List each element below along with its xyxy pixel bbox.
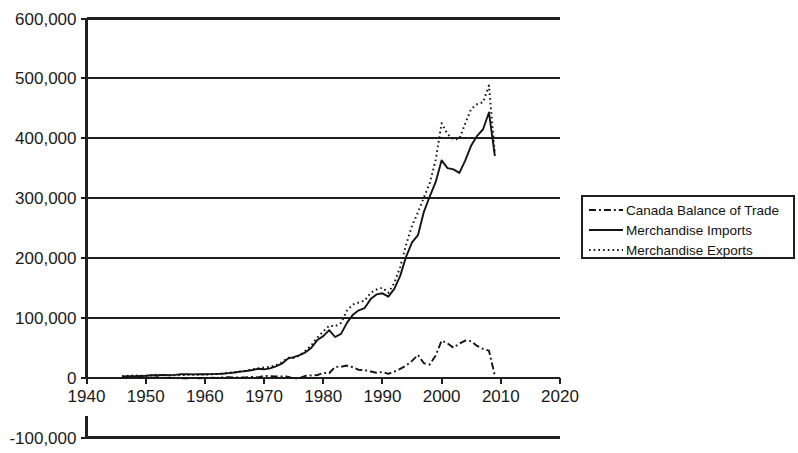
y-tick-label: 200,000 — [15, 249, 76, 268]
y-axis-tick-labels: -100,0000100,000200,000300,000400,000500… — [9, 10, 76, 448]
series-line-canada-balance-of-trade — [122, 341, 495, 379]
data-series — [122, 86, 495, 379]
x-tick-label: 1970 — [245, 387, 283, 406]
x-tick-label: 2020 — [541, 387, 579, 406]
trade-line-chart: -100,0000100,000200,000300,000400,000500… — [0, 0, 798, 453]
y-tick-label: -100,000 — [9, 429, 76, 448]
y-tick-label: 500,000 — [15, 69, 76, 88]
y-tick-label: 100,000 — [15, 309, 76, 328]
legend-label-1: Merchandise Imports — [626, 223, 752, 238]
x-tick-label: 2000 — [423, 387, 461, 406]
series-line-merchandise-exports — [122, 86, 495, 377]
y-tick-label: 400,000 — [15, 129, 76, 148]
legend-label-2: Merchandise Exports — [626, 243, 753, 258]
x-tick-label: 1960 — [186, 387, 224, 406]
y-tick-label: 600,000 — [15, 10, 76, 29]
y-tick-label: 0 — [67, 369, 76, 388]
x-tick-label: 1980 — [304, 387, 342, 406]
legend-label-0: Canada Balance of Trade — [626, 203, 779, 218]
series-line-merchandise-imports — [122, 112, 495, 376]
x-tick-label: 2010 — [482, 387, 520, 406]
chart-container: -100,0000100,000200,000300,000400,000500… — [0, 0, 798, 453]
x-axis-tick-labels: 194019501960197019801990200020102020 — [68, 387, 579, 406]
y-tick-label: 300,000 — [15, 189, 76, 208]
x-tick-label: 1950 — [127, 387, 165, 406]
x-tick-label: 1990 — [364, 387, 402, 406]
chart-legend: Canada Balance of TradeMerchandise Impor… — [582, 196, 794, 258]
x-tick-label: 1940 — [68, 387, 106, 406]
